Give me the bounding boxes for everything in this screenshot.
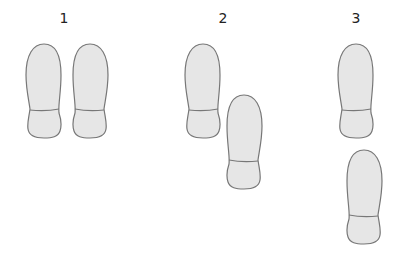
group-3-left-footprint-icon [337,43,375,139]
group-1-right-footprint-icon [71,43,109,139]
group-1-left-footprint-icon [25,43,63,139]
group-2-label: 2 [213,10,233,26]
group-3-label: 3 [346,10,366,26]
group-2-left-footprint-icon [184,43,222,139]
group-2-right-footprint-icon [225,94,263,190]
group-1-label: 1 [54,10,74,26]
group-3-right-footprint-icon [345,149,383,245]
